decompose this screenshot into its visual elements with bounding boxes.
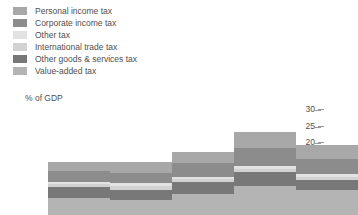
bar-stack — [110, 110, 172, 215]
chart-legend: Personal income taxCorporate income taxO… — [13, 5, 193, 77]
legend-swatch-icon — [13, 7, 27, 15]
bar-segment — [296, 145, 358, 159]
legend-item: International trade tax — [13, 41, 193, 53]
bar-segment — [172, 182, 234, 194]
plot-area: 051015202530 — [0, 105, 324, 215]
bar-segment — [234, 172, 296, 187]
bar-segment — [234, 132, 296, 149]
bar-stack — [48, 110, 110, 215]
bar-segment — [296, 190, 358, 215]
bar-segment — [172, 152, 234, 164]
bar-segment — [110, 162, 172, 173]
bar-segment — [296, 180, 358, 191]
legend-item: Corporate income tax — [13, 17, 193, 29]
bar-segment — [48, 198, 110, 215]
bar-segment — [110, 173, 172, 184]
bar-stack — [296, 110, 358, 215]
legend-swatch-icon — [13, 43, 27, 51]
legend-swatch-icon — [13, 31, 27, 39]
legend-item-label: Value-added tax — [35, 67, 96, 76]
bar-segment — [48, 171, 110, 182]
y-axis-title: % of GDP — [25, 93, 63, 103]
bar-segment — [234, 186, 296, 215]
legend-item: Other tax — [13, 29, 193, 41]
legend-item-label: International trade tax — [35, 43, 117, 52]
legend-item: Personal income tax — [13, 5, 193, 17]
bar-segment — [110, 190, 172, 200]
legend-item: Other goods & services tax — [13, 53, 193, 65]
bar-stack — [234, 110, 296, 215]
bar-stack — [172, 110, 234, 215]
legend-item: Value-added tax — [13, 65, 193, 77]
bar-segment — [48, 187, 110, 198]
legend-item-label: Other tax — [35, 31, 70, 40]
bar-segment — [296, 159, 358, 174]
bar-segment — [172, 163, 234, 176]
legend-item-label: Other goods & services tax — [35, 55, 137, 64]
legend-swatch-icon — [13, 67, 27, 75]
bar-segment — [234, 148, 296, 165]
bar-series-group — [48, 105, 324, 215]
legend-swatch-icon — [13, 55, 27, 63]
bar-segment — [172, 194, 234, 215]
legend-swatch-icon — [13, 19, 27, 27]
bar-segment — [48, 162, 110, 171]
legend-item-label: Corporate income tax — [35, 19, 116, 28]
bar-segment — [110, 200, 172, 215]
legend-item-label: Personal income tax — [35, 7, 112, 16]
